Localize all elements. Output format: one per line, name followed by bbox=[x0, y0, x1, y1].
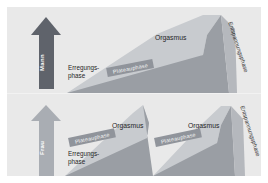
label-orgasmus-frau-2: Orgasmus bbox=[188, 122, 219, 129]
label-erregungsphase-mann: Erregungs- phase bbox=[68, 64, 99, 79]
arrow-mann: Mann bbox=[31, 17, 62, 89]
label-erregungsphase-frau: Erregungs- phase bbox=[68, 150, 99, 165]
row-mann: Mann Erregungs- phase Orgasmus Plateauph… bbox=[7, 7, 261, 93]
label-orgasmus-mann: Orgasmus bbox=[155, 34, 186, 41]
diagram-panel: Mann Erregungs- phase Orgasmus Plateauph… bbox=[7, 7, 261, 176]
label-orgasmus-frau-1: Orgasmus bbox=[112, 122, 143, 129]
row-frau: Frau Erregungs- phase Orgasmus Orgasmus … bbox=[7, 93, 261, 176]
arrow-label-mann: Mann bbox=[39, 43, 54, 83]
arrow-head-mann bbox=[31, 17, 61, 35]
arrow-frau: Frau bbox=[31, 105, 62, 176]
arrow-label-frau: Frau bbox=[39, 129, 54, 167]
sexual-response-cycle-diagram: Mann Erregungs- phase Orgasmus Plateauph… bbox=[0, 0, 268, 183]
arrow-head-frau bbox=[31, 105, 61, 121]
